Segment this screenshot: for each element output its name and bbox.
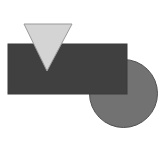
shapes-diagram: [0, 0, 168, 145]
dark-rectangle: [8, 44, 127, 94]
